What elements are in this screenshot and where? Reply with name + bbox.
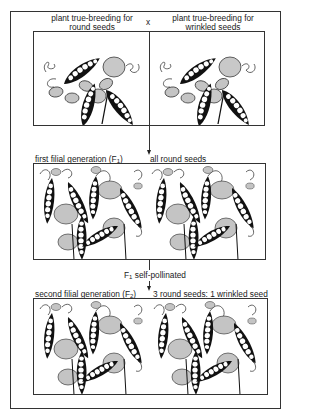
cross-symbol: x bbox=[146, 18, 150, 27]
self-pollination-step-label: F1 self-pollinated bbox=[124, 271, 186, 280]
parent-round-label: plant true-breeding for round seeds bbox=[42, 14, 142, 32]
parent-panel bbox=[33, 31, 265, 126]
arrow-down-icon bbox=[147, 286, 151, 291]
step-text: self-pollinated bbox=[132, 270, 186, 280]
arrow-line-1 bbox=[149, 126, 150, 151]
arrow-line-2 bbox=[149, 260, 150, 270]
f2-panel bbox=[33, 298, 268, 395]
parent-wrinkled-label: plant true-breeding for wrinkled seeds bbox=[163, 14, 263, 32]
f1-panel bbox=[33, 163, 266, 260]
f2-plants-illustration bbox=[34, 299, 268, 395]
parent-plants-illustration bbox=[34, 32, 265, 126]
f1-plants-illustration bbox=[34, 164, 266, 260]
